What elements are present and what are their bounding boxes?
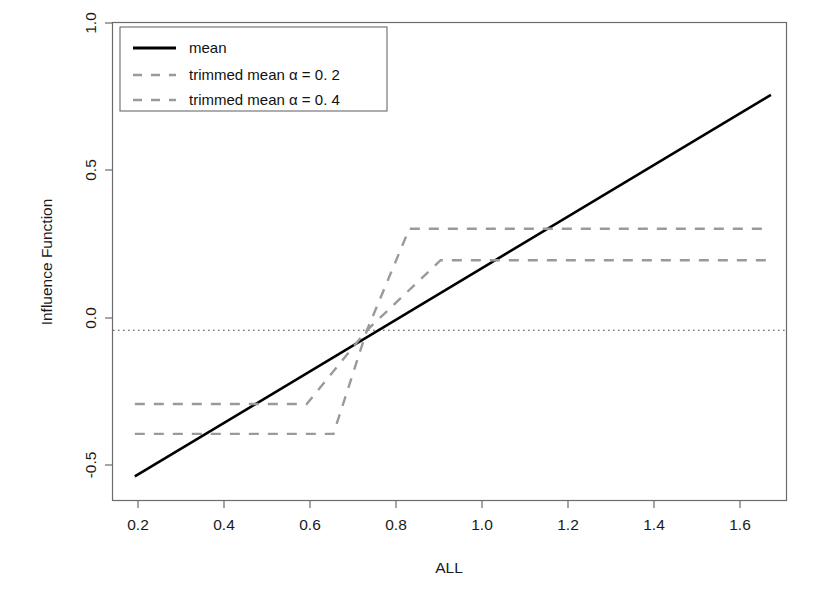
x-tick-label: 0.8 — [385, 516, 407, 533]
legend-label: trimmed mean α = 0. 2 — [189, 66, 340, 83]
x-tick-label: 0.2 — [127, 516, 149, 533]
legend-label: mean — [189, 39, 227, 56]
legend-label: trimmed mean α = 0. 4 — [189, 91, 340, 108]
x-tick-label: 1.4 — [643, 516, 665, 533]
y-tick-label: 0.5 — [82, 159, 99, 181]
x-tick-label: 1.2 — [557, 516, 579, 533]
y-axis-ticks — [105, 23, 113, 465]
y-tick-label: -0.5 — [82, 452, 99, 479]
x-tick-label: 0.4 — [213, 516, 235, 533]
y-tick-labels: -0.5 0.0 0.5 1.0 — [82, 12, 99, 479]
x-tick-label: 1.6 — [729, 516, 751, 533]
x-axis-ticks — [138, 501, 740, 509]
series-layer — [135, 95, 771, 477]
series-line-1 — [135, 260, 771, 404]
x-tick-label: 1.0 — [471, 516, 493, 533]
chart-figure: -0.5 0.0 0.5 1.0 Influence Function 0.2 … — [0, 0, 821, 608]
x-axis-title: ALL — [435, 559, 463, 576]
series-line-0 — [135, 95, 771, 477]
y-tick-label: 0.0 — [82, 307, 99, 329]
y-axis-title: Influence Function — [38, 199, 55, 326]
x-tick-labels: 0.2 0.4 0.6 0.8 1.0 1.2 1.4 1.6 — [127, 516, 751, 533]
influence-function-plot: -0.5 0.0 0.5 1.0 Influence Function 0.2 … — [0, 0, 821, 608]
legend: mean trimmed mean α = 0. 2 trimmed mean … — [120, 27, 387, 111]
y-tick-label: 1.0 — [82, 12, 99, 34]
x-tick-label: 0.6 — [299, 516, 321, 533]
